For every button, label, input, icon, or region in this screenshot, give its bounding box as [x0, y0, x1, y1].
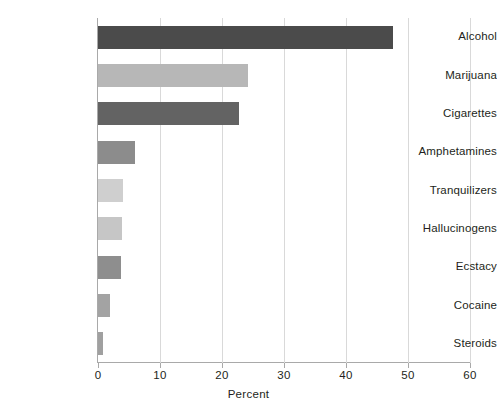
- category-label-cigarettes: Cigarettes: [405, 107, 497, 119]
- category-label-alcohol: Alcohol: [405, 30, 497, 42]
- x-tick-label: 0: [78, 369, 118, 381]
- x-tick-label: 40: [326, 369, 366, 381]
- bar-marijuana[interactable]: [98, 64, 248, 87]
- bar-ecstacy[interactable]: [98, 256, 121, 279]
- tick-mark-30: [284, 363, 285, 368]
- x-tick-label: 30: [264, 369, 304, 381]
- tick-mark-40: [346, 363, 347, 368]
- bar-amphetamines[interactable]: [98, 141, 135, 164]
- x-axis-title: Percent: [0, 388, 497, 400]
- bar-tranquilizers[interactable]: [98, 179, 123, 202]
- tick-mark-0: [98, 363, 99, 368]
- x-tick-label: 50: [388, 369, 428, 381]
- tick-mark-10: [160, 363, 161, 368]
- bar-hallucinogens[interactable]: [98, 217, 122, 240]
- x-tick-label: 20: [202, 369, 242, 381]
- category-label-steroids: Steroids: [405, 337, 497, 349]
- category-label-ecstacy: Ecstacy: [405, 260, 497, 272]
- category-label-amphetamines: Amphetamines: [405, 145, 497, 157]
- bar-chart: 0102030405060 AlcoholMarijuanaCigarettes…: [0, 0, 497, 416]
- x-tick-label: 60: [450, 369, 490, 381]
- category-label-hallucinogens: Hallucinogens: [405, 222, 497, 234]
- bar-steroids[interactable]: [98, 332, 103, 355]
- category-label-cocaine: Cocaine: [405, 299, 497, 311]
- bar-alcohol[interactable]: [98, 26, 393, 49]
- category-label-marijuana: Marijuana: [405, 69, 497, 81]
- tick-mark-60: [470, 363, 471, 368]
- x-tick-label: 10: [140, 369, 180, 381]
- tick-mark-50: [408, 363, 409, 368]
- category-label-tranquilizers: Tranquilizers: [405, 184, 497, 196]
- bar-cocaine[interactable]: [98, 294, 110, 317]
- bar-cigarettes[interactable]: [98, 102, 239, 125]
- tick-mark-20: [222, 363, 223, 368]
